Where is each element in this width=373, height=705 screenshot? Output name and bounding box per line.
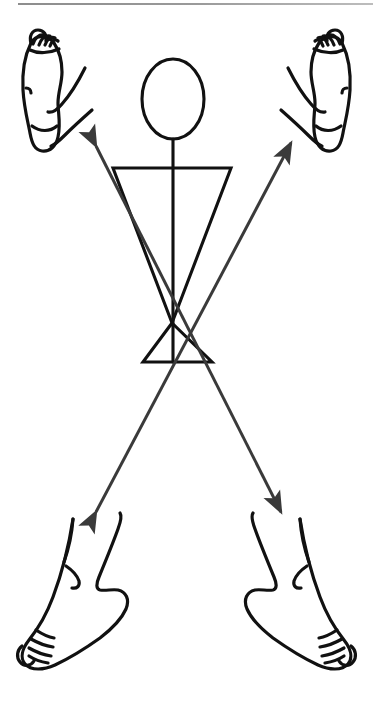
figure-root: Crossed reflex stick figure with four fe… (0, 0, 373, 705)
foot-upper-right-leg-lower (281, 110, 322, 146)
foot-upper-left (23, 30, 92, 151)
stick-figure (113, 59, 231, 362)
foot-lower-left-outline (22, 513, 127, 669)
foot-lower-left (18, 513, 128, 669)
foot-upper-right-ball-crease (314, 49, 343, 53)
foot-upper-right (281, 30, 350, 151)
foot-upper-right-arch-mark (342, 88, 347, 93)
foot-lower-right-instep-notch (294, 566, 307, 588)
foot-lower-left-instep-notch (66, 566, 79, 588)
foot-upper-right-heel-crease (316, 126, 341, 131)
foot-lower-right-toe-1 (319, 630, 337, 638)
foot-lower-right-toe-3 (322, 648, 344, 656)
foot-lower-right (245, 513, 355, 669)
head-icon (142, 59, 204, 139)
foot-lower-left-toe-3 (29, 648, 51, 656)
foot-upper-left-ball-crease (30, 49, 59, 53)
crossed-reflex-diagram: Crossed reflex stick figure with four fe… (0, 0, 373, 705)
foot-lower-left-shin-line (64, 519, 73, 562)
foot-lower-right-outline (245, 513, 350, 669)
foot-upper-left-leg-lower (51, 110, 92, 146)
foot-lower-left-toe-2 (31, 639, 53, 647)
foot-lower-right-shin-line (300, 519, 309, 562)
foot-upper-left-leg-upper (48, 68, 85, 112)
foot-lower-left-toe-1 (36, 630, 54, 638)
foot-upper-left-heel-crease (32, 126, 57, 131)
foot-upper-right-leg-upper (288, 68, 325, 112)
foot-lower-right-toe-2 (320, 639, 342, 647)
foot-upper-left-arch-mark (26, 88, 31, 93)
